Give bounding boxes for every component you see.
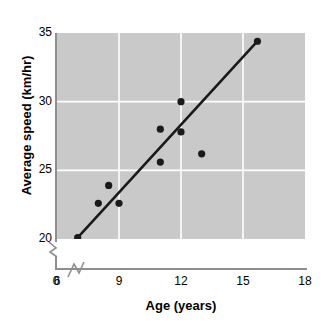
data-point [254, 38, 261, 45]
x-tick-label: 12 [169, 274, 193, 288]
x-tick-label: 18 [293, 274, 317, 288]
plot-area [57, 33, 305, 239]
x-axis-title: Age (years) [55, 298, 307, 313]
vertical-gridlines [119, 33, 243, 239]
x-tick-label: 9 [107, 274, 131, 288]
y-tick-label: 20 [30, 231, 52, 245]
trend-line [78, 41, 258, 237]
data-point [115, 200, 122, 207]
y-axis-line [55, 33, 57, 242]
data-point [157, 126, 164, 133]
x-tick-labels: 069121518 [0, 274, 329, 292]
y-axis-title: Average speed (km/hr) [19, 36, 34, 216]
data-point [198, 150, 205, 157]
data-point [157, 158, 164, 165]
x-axis-line [55, 268, 307, 270]
data-point [177, 128, 184, 135]
x-tick-label: 15 [231, 274, 255, 288]
data-point [177, 98, 184, 105]
data-point [105, 182, 112, 189]
plot-svg [57, 33, 305, 239]
data-point [95, 200, 102, 207]
scatter-chart: 20253035 069121518 Average speed (km/hr)… [0, 0, 329, 324]
x-tick-label: 6 [45, 274, 69, 288]
